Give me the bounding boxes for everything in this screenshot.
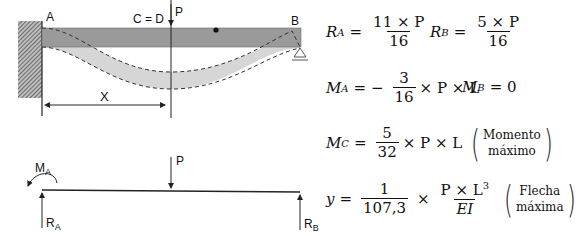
label-x: X [100,90,109,103]
formula-mb: MB = 0 [462,78,522,96]
fbd-beam-line [42,190,300,192]
max-deflection-dot [213,27,218,32]
label-a: A [46,11,54,23]
label-p-top: P [175,6,183,18]
formula-ra: RA = 11 × P16 [326,14,430,50]
formula-rb: RB = 5 × P16 [430,14,525,50]
fixed-wall [18,21,42,98]
label-c-eq-d: C = D [133,13,164,25]
label-ra: RA [46,217,61,232]
formula-mc: MC = 532 × P × L (Momentomáximo) [326,124,556,162]
formula-ma: MA = − 316 × P × L [326,70,479,106]
label-b: B [291,15,299,27]
label-p-bottom: P [176,155,184,167]
label-rb: RB [304,218,319,233]
formula-y: y = 1107,3 × P × L3EI (Flechamáxima) [326,180,578,218]
label-ma: MA [35,162,51,177]
